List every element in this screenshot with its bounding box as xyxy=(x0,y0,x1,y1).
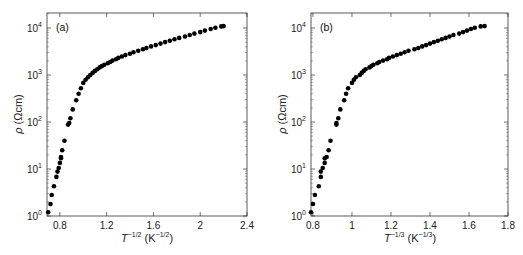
data-point xyxy=(322,161,327,166)
x-axis-label: T−1/2 (K−1/2) xyxy=(121,231,173,244)
y-tick-label: 102 xyxy=(27,115,42,128)
data-point xyxy=(313,193,318,198)
figure: 100101102103104 0.81.21.622.4 (a) ρ (Ωcm… xyxy=(0,0,523,255)
y-tick-label: 102 xyxy=(291,115,306,128)
data-points xyxy=(46,24,226,215)
data-point xyxy=(203,28,208,33)
y-tick-label: 101 xyxy=(27,162,42,175)
data-point xyxy=(432,40,437,45)
x-tick-label: 0.8 xyxy=(53,220,67,231)
y-axis-ticks: 100101102103104 xyxy=(27,14,247,222)
x-tick-label: 0.8 xyxy=(306,220,320,231)
data-point xyxy=(56,166,61,171)
data-point xyxy=(177,36,182,41)
data-point xyxy=(213,26,218,31)
data-point xyxy=(192,31,197,36)
data-point xyxy=(319,175,324,180)
y-tick-label: 103 xyxy=(291,68,306,81)
data-point xyxy=(172,37,177,42)
y-axis-label: ρ (Ωcm) xyxy=(12,94,24,135)
y-tick-label: 101 xyxy=(291,162,306,175)
x-axis-label: T−1/3 (K−1/3) xyxy=(384,231,436,244)
data-point xyxy=(334,121,339,126)
data-point xyxy=(54,175,59,180)
x-tick-label: 1.4 xyxy=(423,220,437,231)
data-point xyxy=(131,50,136,55)
data-point xyxy=(328,138,333,143)
y-axis-label: ρ (Ωcm) xyxy=(276,94,288,135)
data-point xyxy=(326,148,331,153)
panel-label: (a) xyxy=(56,21,69,33)
data-point xyxy=(58,161,63,166)
data-point xyxy=(123,53,128,58)
data-point xyxy=(52,184,57,189)
data-point xyxy=(354,75,359,80)
data-point xyxy=(62,138,67,143)
x-tick-label: 1.6 xyxy=(146,220,160,231)
data-point xyxy=(451,33,456,38)
x-tick-label: 1 xyxy=(349,220,355,231)
data-point xyxy=(208,27,213,32)
y-tick-label: 104 xyxy=(291,21,306,34)
data-point xyxy=(420,44,425,49)
data-point xyxy=(482,24,487,29)
plot-frame xyxy=(311,13,508,216)
data-points xyxy=(309,24,487,215)
data-point xyxy=(79,86,84,91)
data-point xyxy=(336,116,341,121)
x-tick-label: 1.6 xyxy=(462,220,476,231)
data-point xyxy=(342,98,347,103)
data-point xyxy=(59,155,64,160)
y-axis-ticks: 100101102103104 xyxy=(291,14,508,222)
data-point xyxy=(317,184,322,189)
data-point xyxy=(136,49,141,54)
x-tick-label: 1.2 xyxy=(100,220,114,231)
data-point xyxy=(346,86,351,91)
data-point xyxy=(469,27,474,32)
panel-label: (b) xyxy=(320,21,333,33)
data-point xyxy=(154,43,159,48)
data-point xyxy=(49,193,54,198)
data-point xyxy=(309,210,314,215)
data-point xyxy=(478,24,483,29)
data-point xyxy=(198,30,203,35)
data-point xyxy=(68,116,73,121)
data-point xyxy=(48,202,53,207)
x-tick-label: 2.4 xyxy=(240,220,254,231)
y-tick-label: 104 xyxy=(27,21,42,34)
data-point xyxy=(320,166,325,171)
x-tick-label: 2 xyxy=(197,220,203,231)
data-point xyxy=(187,33,192,38)
data-point xyxy=(158,41,163,46)
chart-panel-a: 100101102103104 0.81.21.622.4 (a) ρ (Ωcm… xyxy=(12,13,254,244)
y-tick-label: 100 xyxy=(291,209,306,222)
data-point xyxy=(412,47,417,52)
y-tick-label: 103 xyxy=(27,68,42,81)
data-point xyxy=(168,39,173,44)
data-point xyxy=(163,40,168,45)
chart-panel-b: 100101102103104 0.811.21.41.61.8 (b) ρ (… xyxy=(276,13,515,244)
y-tick-label: 100 xyxy=(27,209,42,222)
data-point xyxy=(60,148,65,153)
data-point xyxy=(473,26,478,31)
x-tick-label: 1.2 xyxy=(384,220,398,231)
plot-frame xyxy=(47,13,247,216)
data-point xyxy=(406,49,411,54)
data-point xyxy=(76,91,81,96)
data-point xyxy=(67,121,72,126)
x-tick-label: 1.8 xyxy=(501,220,515,231)
data-point xyxy=(338,107,343,112)
data-point xyxy=(324,155,329,160)
data-point xyxy=(149,44,154,49)
data-point xyxy=(70,107,75,112)
data-point xyxy=(311,202,316,207)
data-point xyxy=(74,98,79,103)
data-point xyxy=(46,210,51,215)
data-point xyxy=(381,58,386,63)
data-point xyxy=(221,24,226,29)
data-point xyxy=(344,91,349,96)
data-point xyxy=(183,34,188,39)
data-point xyxy=(144,46,149,51)
